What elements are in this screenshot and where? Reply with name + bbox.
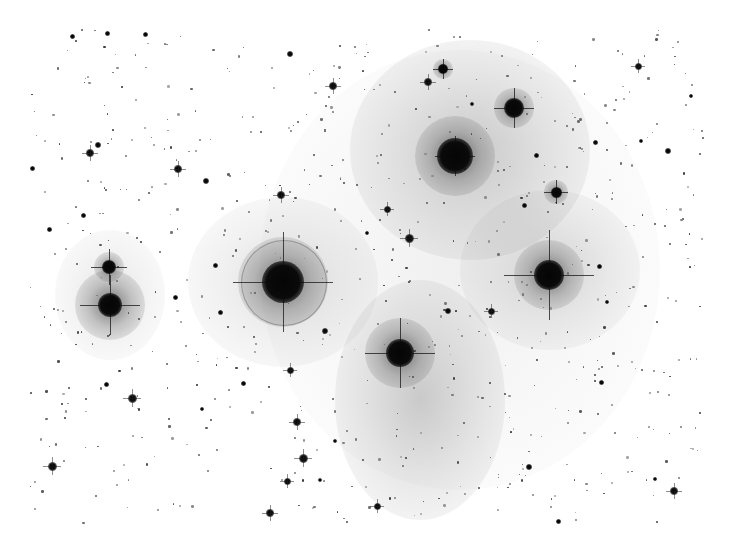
faint-star — [201, 295, 203, 297]
faint-star — [294, 437, 296, 439]
faint-star — [440, 315, 442, 317]
faint-star — [167, 85, 170, 88]
faint-star — [254, 292, 256, 294]
faint-star — [82, 522, 84, 524]
faint-star — [75, 206, 77, 208]
faint-star — [611, 404, 613, 406]
faint-star — [524, 96, 526, 98]
diffraction-spike — [428, 74, 429, 90]
faint-star — [506, 75, 508, 77]
faint-star — [332, 398, 334, 400]
faint-star — [337, 511, 339, 513]
faint-star — [604, 104, 607, 107]
star — [522, 203, 527, 208]
faint-star — [701, 130, 703, 132]
faint-star — [322, 338, 324, 340]
faint-star — [463, 422, 465, 424]
faint-star — [380, 154, 382, 156]
faint-star — [379, 84, 380, 85]
faint-star — [680, 219, 682, 221]
faint-star — [683, 172, 686, 175]
faint-star — [497, 253, 499, 255]
faint-star — [396, 429, 398, 431]
faint-star — [314, 92, 316, 94]
star — [689, 94, 693, 98]
diffraction-spike — [178, 161, 179, 177]
faint-star — [76, 263, 79, 266]
faint-star — [340, 220, 342, 222]
faint-star — [179, 505, 181, 507]
faint-star — [521, 281, 523, 283]
faint-star — [625, 145, 627, 147]
faint-star — [339, 323, 340, 324]
faint-star — [459, 36, 461, 38]
faint-star — [508, 281, 509, 282]
faint-star — [415, 108, 416, 109]
faint-star — [678, 477, 680, 479]
faint-star — [355, 438, 357, 440]
faint-star — [94, 30, 95, 31]
faint-star — [75, 344, 77, 346]
faint-star — [692, 448, 694, 450]
faint-star — [121, 86, 123, 88]
diffraction-spike — [377, 499, 378, 513]
faint-star — [509, 483, 511, 485]
faint-star — [568, 410, 569, 411]
faint-star — [341, 356, 343, 358]
faint-star — [690, 448, 691, 449]
faint-star — [343, 182, 345, 184]
star — [105, 31, 110, 36]
faint-star — [620, 162, 622, 164]
faint-star — [453, 36, 455, 38]
faint-star — [505, 412, 506, 413]
faint-star — [599, 336, 600, 337]
faint-star — [632, 286, 634, 288]
star-atlas — [98, 293, 122, 317]
faint-star — [394, 497, 396, 499]
faint-star — [428, 116, 430, 118]
faint-star — [164, 148, 166, 150]
faint-star — [581, 260, 583, 262]
faint-star — [57, 67, 59, 69]
faint-star — [647, 77, 649, 79]
faint-star — [498, 184, 500, 186]
faint-star — [167, 130, 169, 132]
faint-star — [503, 221, 505, 223]
faint-star — [85, 78, 86, 79]
star — [534, 153, 539, 158]
faint-star — [68, 387, 70, 389]
faint-star — [105, 189, 107, 191]
star — [470, 102, 474, 106]
faint-star — [664, 225, 666, 227]
faint-star — [316, 246, 318, 248]
faint-star — [693, 129, 694, 130]
faint-star — [449, 131, 451, 133]
faint-star — [366, 403, 367, 404]
faint-star — [697, 450, 698, 451]
faint-star — [568, 361, 570, 363]
faint-star — [365, 486, 367, 488]
faint-star — [596, 195, 599, 198]
faint-star — [197, 361, 198, 362]
faint-star — [595, 193, 596, 194]
faint-star — [699, 153, 701, 155]
faint-star — [67, 223, 68, 224]
faint-star — [188, 151, 190, 153]
faint-star — [36, 135, 37, 136]
faint-star — [497, 509, 499, 511]
faint-star — [687, 186, 689, 188]
faint-star — [361, 220, 362, 221]
faint-star — [530, 271, 532, 273]
faint-star — [248, 211, 250, 213]
faint-star — [57, 360, 60, 363]
faint-star — [44, 191, 46, 193]
faint-star — [196, 384, 197, 385]
faint-star — [97, 446, 98, 447]
faint-star — [609, 179, 611, 181]
faint-star — [343, 518, 345, 520]
faint-star — [135, 99, 137, 101]
star-asterope — [551, 187, 562, 198]
diffraction-spike — [52, 457, 53, 475]
faint-star — [702, 137, 704, 139]
faint-star — [504, 393, 506, 395]
